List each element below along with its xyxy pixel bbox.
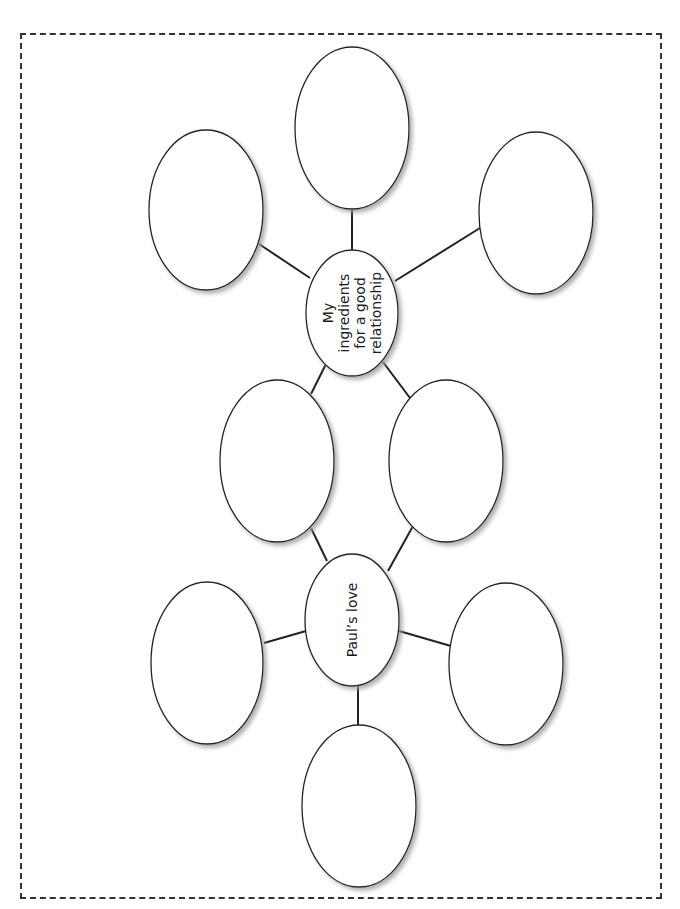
connector-line-center-pauls-love-to-bottom-right [399,631,451,646]
connector-line-center-ingredients-to-mid-right [383,362,410,398]
bubble-bottom[interactable] [302,725,416,887]
connector-line-center-pauls-love-to-bottom-left [264,631,306,643]
bubble-top-left[interactable] [149,130,263,290]
bubble-mid-left[interactable] [220,380,334,542]
bubble-center-ingredients: Myingredientsfor a goodrelationship [306,250,398,376]
bubble-shape [389,380,503,542]
bubble-map-diagram: Myingredientsfor a goodrelationshipPaul’… [0,0,680,909]
bubble-nodes: Myingredientsfor a goodrelationshipPaul’… [149,47,593,887]
bubble-shape [151,582,263,744]
bubble-bottom-right[interactable] [449,583,563,745]
bubble-shape [149,130,263,290]
connector-line-center-ingredients-to-top-left [259,244,310,278]
bubble-center-pauls-love: Paul’s love [305,554,399,686]
connector-line-center-ingredients-to-mid-left [311,364,326,394]
bubble-shape [302,725,416,887]
bubble-top[interactable] [295,47,409,209]
connector-line-center-pauls-love-to-mid-left [311,528,327,561]
bubble-shape [449,583,563,745]
bubble-shape [220,380,334,542]
bubble-mid-right[interactable] [389,380,503,542]
bubble-shape [479,132,593,294]
bubble-top-right[interactable] [479,132,593,294]
bubble-label: Paul’s love [344,583,360,658]
connector-line-center-ingredients-to-top-right [395,228,480,281]
connector-line-center-pauls-love-to-mid-right [388,526,413,571]
bubble-shape [295,47,409,209]
bubble-bottom-left[interactable] [151,582,263,744]
